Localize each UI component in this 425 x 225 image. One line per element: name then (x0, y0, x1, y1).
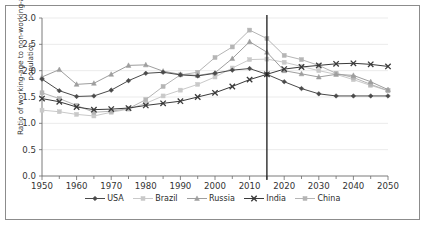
data-point-marker (334, 94, 339, 99)
data-point-marker (230, 45, 234, 49)
data-point-marker (141, 197, 145, 201)
y-axis-tick-label: 2.0 (22, 66, 36, 76)
data-point-marker (368, 94, 373, 99)
data-point-marker (92, 114, 96, 118)
legend-label: India (266, 194, 286, 203)
legend-marker-square-icon (133, 194, 153, 203)
x-axis-tick-label: 2000 (204, 181, 226, 191)
data-point-marker (247, 77, 252, 82)
legend-marker-triangle-icon (187, 194, 207, 203)
legend-label: Russia (209, 194, 235, 203)
data-point-marker (247, 39, 252, 44)
data-point-marker (213, 56, 217, 60)
x-axis-tick-label: 2010 (239, 181, 261, 191)
legend-item-india[interactable]: India (244, 194, 286, 203)
data-point-marker (247, 66, 252, 71)
data-point-marker (109, 72, 114, 77)
x-axis-tick-label: 1960 (66, 181, 88, 191)
chart-legend: USABrazilRussiaIndiaChina (40, 194, 385, 203)
series-line (42, 59, 388, 116)
legend-marker-x-icon (244, 194, 264, 203)
x-axis-tick-label: 1980 (135, 181, 157, 191)
legend-item-russia[interactable]: Russia (187, 194, 235, 203)
data-point-marker (351, 94, 356, 99)
data-point-marker (196, 82, 200, 86)
legend-marker-square-icon (295, 194, 315, 203)
legend-label: China (317, 194, 340, 203)
data-point-marker (282, 53, 286, 57)
legend-label: USA (107, 194, 124, 203)
data-point-marker (317, 92, 322, 97)
y-axis-tick-label: 1.5 (22, 92, 36, 102)
data-point-marker (248, 28, 252, 32)
data-point-marker (57, 110, 61, 114)
y-axis-tick-label: 0.5 (22, 145, 36, 155)
data-point-marker (75, 112, 79, 116)
data-point-marker (92, 196, 97, 201)
legend-item-brazil[interactable]: Brazil (133, 194, 178, 203)
x-axis-tick-label: 2050 (377, 181, 399, 191)
data-point-marker (282, 79, 287, 84)
y-axis-tick-label: 2.5 (22, 39, 36, 49)
data-point-marker (300, 58, 304, 62)
data-point-marker (109, 88, 114, 93)
x-axis-tick-label: 2040 (342, 181, 364, 191)
data-point-marker (40, 108, 44, 112)
x-axis-tick-label: 2020 (273, 181, 295, 191)
data-point-marker (57, 67, 62, 72)
legend-marker-diamond-icon (85, 194, 105, 203)
data-point-marker (178, 88, 182, 92)
data-point-marker (161, 94, 165, 98)
data-point-marker (303, 197, 307, 201)
data-point-marker (230, 84, 235, 89)
data-point-marker (161, 84, 165, 88)
x-axis-tick-label: 1990 (169, 181, 191, 191)
x-axis-tick-label: 1950 (31, 181, 53, 191)
legend-item-usa[interactable]: USA (85, 194, 124, 203)
data-point-marker (74, 94, 79, 99)
chart-figure: Ratio of working-age to non-working-age … (0, 0, 425, 225)
data-point-marker (144, 98, 148, 102)
data-point-marker (126, 78, 131, 83)
data-point-marker (299, 86, 304, 91)
series-india (39, 61, 390, 113)
data-point-marker (40, 91, 44, 95)
legend-label: Brazil (155, 194, 177, 203)
legend-item-china[interactable]: China (295, 194, 340, 203)
data-point-marker (144, 71, 149, 76)
data-point-marker (282, 60, 286, 64)
data-point-marker (248, 58, 252, 62)
y-axis-tick-label: 3.0 (22, 13, 36, 23)
data-point-marker (92, 94, 97, 99)
y-axis-tick-label: 0.0 (22, 171, 36, 181)
y-axis-tick-label: 1.0 (22, 118, 36, 128)
data-point-marker (317, 69, 321, 73)
data-point-marker (386, 94, 391, 99)
x-axis-tick-label: 1970 (100, 181, 122, 191)
x-axis-tick-label: 2030 (308, 181, 330, 191)
line-chart-plot: 0.00.51.01.52.02.53.01950196019701980199… (0, 0, 425, 225)
